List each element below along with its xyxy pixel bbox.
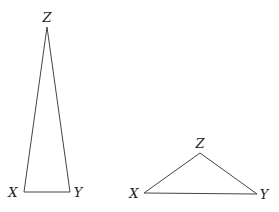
triangles-svg: Z X Y Z X Y bbox=[0, 0, 279, 212]
tall-triangle-vertex-x-label: X bbox=[7, 185, 18, 200]
tall-triangle-outline bbox=[24, 27, 70, 192]
wide-triangle-outline bbox=[144, 153, 257, 194]
wide-triangle: Z X Y bbox=[128, 136, 269, 202]
diagram-canvas: Z X Y Z X Y bbox=[0, 0, 279, 212]
tall-triangle-vertex-y-label: Y bbox=[74, 185, 84, 200]
wide-triangle-vertex-z-label: Z bbox=[194, 136, 205, 151]
wide-triangle-vertex-y-label: Y bbox=[260, 187, 270, 202]
tall-triangle: Z X Y bbox=[7, 10, 83, 200]
wide-triangle-vertex-x-label: X bbox=[128, 186, 139, 201]
tall-triangle-vertex-z-label: Z bbox=[41, 10, 52, 25]
